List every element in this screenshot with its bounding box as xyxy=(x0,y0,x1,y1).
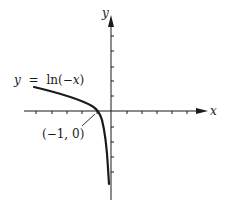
point-label: (−1, 0) xyxy=(42,127,84,141)
x-axis-label: x xyxy=(210,104,217,118)
y-axis-label: y xyxy=(101,6,109,20)
curve-label-eq: = xyxy=(29,73,39,87)
curve-label-close: ) xyxy=(80,73,85,87)
point-leader-line xyxy=(82,114,95,126)
y-axis-arrow-icon xyxy=(108,15,114,27)
curve-label-fn: ln(− xyxy=(47,73,73,87)
curve-label: y = ln(−x) xyxy=(13,73,84,87)
x-axis xyxy=(24,108,208,114)
x-axis-arrow-icon xyxy=(196,108,208,114)
curve-label-y: y xyxy=(13,73,21,87)
graph: y x y = ln(−x) (−1, 0) xyxy=(0,0,227,205)
